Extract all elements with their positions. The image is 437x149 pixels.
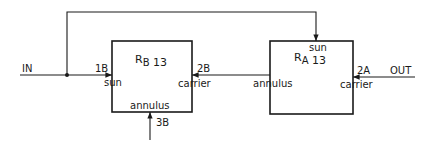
block-ra13-subscript: A xyxy=(302,55,309,66)
port-1b-label: 1B xyxy=(95,64,108,74)
port-b-carrier-label: carrier xyxy=(178,79,211,89)
port-2b-label: 2B xyxy=(197,64,210,74)
block-rb13-number: 13 xyxy=(153,56,167,69)
diagram-canvas xyxy=(0,0,437,149)
port-b-sun-label: sun xyxy=(104,78,122,88)
block-rb13-name: R xyxy=(135,53,143,66)
block-ra13-name: R xyxy=(294,51,302,64)
block-ra13-number: 13 xyxy=(312,54,326,67)
port-b-annulus-label: annulus xyxy=(130,101,169,111)
port-2a-label: 2A xyxy=(357,66,370,76)
block-rb13-subscript: B xyxy=(143,57,150,68)
port-3b-label: 3B xyxy=(156,118,169,128)
port-a-annulus-label: annulus xyxy=(253,79,292,89)
port-a-carrier-label: carrier xyxy=(340,80,373,90)
block-rb13-title: RB 13 xyxy=(135,55,167,65)
output-label: OUT xyxy=(390,66,411,76)
input-label: IN xyxy=(22,64,32,74)
block-ra13-title: RA 13 xyxy=(294,53,326,63)
